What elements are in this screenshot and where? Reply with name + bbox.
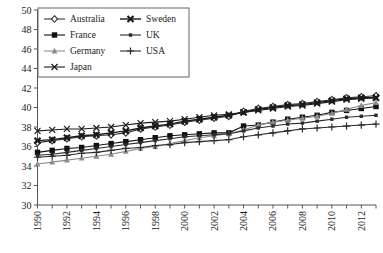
data-point-marker bbox=[129, 33, 132, 36]
legend-label: Japan bbox=[70, 62, 92, 72]
data-point-marker bbox=[240, 133, 247, 140]
data-point-marker bbox=[107, 147, 114, 154]
legend-label: Sweden bbox=[146, 14, 176, 24]
data-point-marker bbox=[301, 121, 304, 124]
x-axis-tick-label: 2012 bbox=[356, 211, 367, 231]
data-point-marker bbox=[345, 116, 348, 119]
x-axis-tick-label: 2000 bbox=[179, 211, 190, 231]
data-point-marker bbox=[52, 32, 57, 37]
x-axis-tick-label: 2004 bbox=[238, 211, 249, 231]
x-axis-tick-label: 2010 bbox=[326, 211, 337, 231]
legend-label: Germany bbox=[70, 46, 106, 56]
series-usa bbox=[34, 120, 380, 160]
data-point-marker bbox=[271, 124, 274, 127]
data-point-marker bbox=[315, 119, 318, 122]
data-point-marker bbox=[196, 138, 203, 145]
data-point-marker bbox=[374, 114, 377, 117]
x-axis-tick-label: 2008 bbox=[297, 211, 308, 231]
y-axis: 3032343638404244464850 bbox=[22, 5, 38, 211]
y-axis-tick-label: 36 bbox=[22, 141, 32, 152]
y-axis-tick-label: 48 bbox=[22, 24, 32, 35]
x-axis-tick-label: 2006 bbox=[267, 211, 278, 231]
x-axis-tick-label: 1992 bbox=[61, 211, 72, 231]
legend-label: Australia bbox=[70, 14, 106, 24]
data-point-marker bbox=[139, 141, 142, 144]
y-axis-tick-label: 40 bbox=[22, 102, 32, 113]
line-chart: 3032343638404244464850 19901992199419961… bbox=[0, 0, 383, 253]
data-point-marker bbox=[299, 125, 306, 132]
x-axis-tick-label: 1990 bbox=[32, 211, 43, 231]
y-axis-tick-label: 34 bbox=[22, 161, 32, 172]
data-point-marker bbox=[166, 141, 173, 148]
data-point-marker bbox=[152, 142, 159, 149]
legend-label: USA bbox=[146, 46, 165, 56]
chart-canvas: 3032343638404244464850 19901992199419961… bbox=[0, 0, 383, 253]
y-axis-tick-label: 50 bbox=[22, 5, 32, 16]
data-point-marker bbox=[93, 149, 100, 156]
data-point-marker bbox=[154, 139, 157, 142]
data-point-marker bbox=[242, 129, 245, 132]
data-point-marker bbox=[269, 129, 276, 136]
data-point-marker bbox=[330, 118, 333, 121]
x-axis: 1990199219941996199820002002200420062008… bbox=[32, 205, 376, 231]
data-point-marker bbox=[183, 135, 186, 138]
data-point-marker bbox=[358, 121, 365, 128]
data-point-marker bbox=[64, 146, 69, 151]
series-australia bbox=[34, 93, 379, 146]
data-point-marker bbox=[257, 126, 260, 129]
data-point-marker bbox=[255, 131, 262, 138]
x-axis-tick-label: 1994 bbox=[91, 211, 102, 231]
series-france bbox=[35, 104, 379, 155]
data-point-marker bbox=[284, 127, 291, 134]
legend-label: France bbox=[70, 30, 96, 40]
data-point-marker bbox=[198, 134, 201, 137]
data-point-marker bbox=[343, 122, 350, 129]
x-axis-tick-label: 1996 bbox=[120, 211, 131, 231]
y-axis-tick-label: 38 bbox=[22, 122, 32, 133]
data-point-marker bbox=[50, 148, 55, 153]
data-point-marker bbox=[212, 133, 215, 136]
data-point-marker bbox=[225, 136, 232, 143]
y-axis-tick-label: 46 bbox=[22, 44, 32, 55]
series-line bbox=[38, 107, 377, 153]
legend-label: UK bbox=[146, 30, 160, 40]
x-axis-tick-label: 2002 bbox=[209, 211, 220, 231]
data-series-group bbox=[34, 93, 380, 167]
data-point-marker bbox=[137, 144, 144, 151]
data-point-marker bbox=[286, 122, 289, 125]
chart-legend: AustraliaSwedenFranceUKGermanyUSAJapan bbox=[38, 8, 189, 77]
data-point-marker bbox=[314, 124, 321, 131]
data-point-marker bbox=[168, 137, 171, 140]
y-axis-tick-label: 32 bbox=[22, 180, 32, 191]
data-point-marker bbox=[328, 123, 335, 130]
data-point-marker bbox=[360, 115, 363, 118]
x-axis-tick-label: 1998 bbox=[150, 211, 161, 231]
y-axis-tick-label: 44 bbox=[22, 63, 32, 74]
y-axis-tick-label: 42 bbox=[22, 83, 32, 94]
data-point-marker bbox=[372, 120, 379, 127]
data-point-marker bbox=[227, 132, 230, 135]
y-axis-tick-label: 30 bbox=[22, 200, 32, 211]
